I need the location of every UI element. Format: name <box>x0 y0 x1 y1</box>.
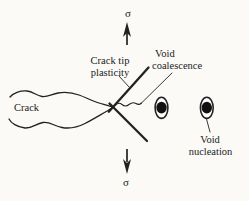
void-far <box>200 97 213 118</box>
crack-tip-plasticity-line1: Crack tip <box>91 55 130 66</box>
void-near <box>155 97 168 118</box>
void-coalescence-line2: coalescence <box>152 60 202 71</box>
void-nucleation-line1: Void <box>200 134 220 145</box>
stress-arrow-down-icon <box>123 149 131 174</box>
sigma-top-label: σ <box>125 7 131 19</box>
void-core <box>156 102 166 114</box>
void-coalescence-squiggle <box>115 103 142 106</box>
crack-tip-plasticity-label: Crack tip plasticity <box>91 55 130 78</box>
void-core <box>202 102 212 114</box>
fracture-mechanism-diagram: σ σ Crack <box>0 0 249 201</box>
lower-flank-line <box>110 104 148 142</box>
void-coalescence-label: Void coalescence <box>152 48 202 71</box>
nucleation-leader-line <box>207 119 211 132</box>
void-nucleation-label: Void nucleation <box>189 134 233 157</box>
sigma-bottom-label: σ <box>123 176 129 188</box>
stress-arrow-up-icon <box>123 22 131 45</box>
diagram-canvas: σ σ Crack <box>0 0 249 201</box>
coalescence-leader-line <box>142 73 173 103</box>
crack-tip-plasticity-line2: plasticity <box>91 67 130 78</box>
void-coalescence-line1: Void <box>155 48 175 59</box>
void-nucleation-line2: nucleation <box>189 146 233 157</box>
crack-label: Crack <box>14 102 40 113</box>
